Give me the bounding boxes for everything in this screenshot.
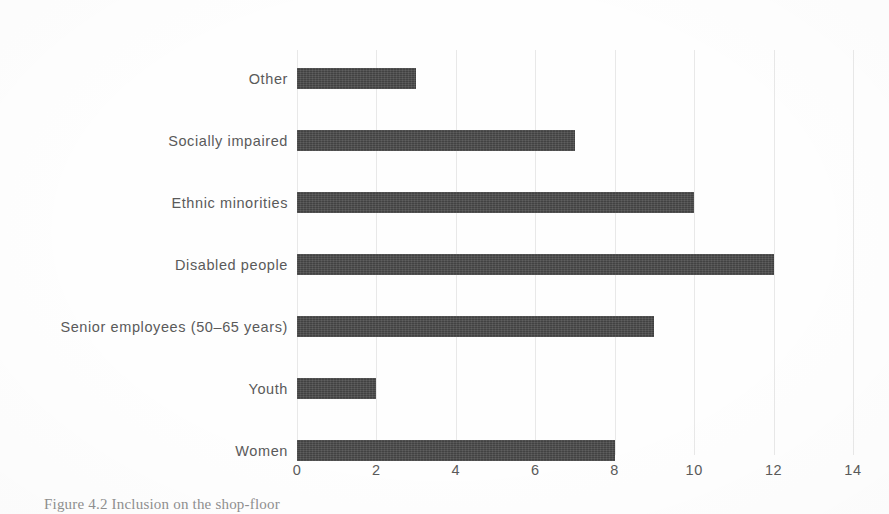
bar-row: Other (297, 68, 853, 89)
bar (297, 192, 694, 213)
x-axis-ticks: 02468101214 (297, 462, 853, 484)
bar-category-label: Socially impaired (168, 133, 288, 149)
x-axis-tick-label: 4 (452, 462, 461, 478)
x-axis-tick-label: 2 (372, 462, 381, 478)
bar (297, 68, 416, 89)
x-axis-tick-label: 8 (610, 462, 619, 478)
x-axis-tick-label: 0 (293, 462, 302, 478)
bar-row: Senior employees (50–65 years) (297, 316, 853, 337)
x-axis-tick-label: 12 (765, 462, 782, 478)
figure-caption: Figure 4.2 Inclusion on the shop-floor (44, 496, 280, 513)
bar-category-label: Disabled people (175, 257, 288, 273)
bar (297, 378, 376, 399)
gridline (853, 50, 854, 455)
bar-category-label: Ethnic minorities (171, 195, 288, 211)
bar (297, 316, 654, 337)
chart-plot-area: WomenYouthSenior employees (50–65 years)… (297, 50, 853, 455)
bar-category-label: Senior employees (50–65 years) (60, 319, 288, 335)
bar (297, 130, 575, 151)
bar-row: Ethnic minorities (297, 192, 853, 213)
bar (297, 254, 774, 275)
bar-category-label: Youth (248, 381, 288, 397)
bar-category-label: Other (249, 71, 288, 87)
bar (297, 440, 615, 461)
bar-row: Socially impaired (297, 130, 853, 151)
figure-container: WomenYouthSenior employees (50–65 years)… (0, 0, 889, 514)
bar-row: Disabled people (297, 254, 853, 275)
bar-row: Youth (297, 378, 853, 399)
x-axis-tick-label: 6 (531, 462, 540, 478)
x-axis-tick-label: 14 (844, 462, 861, 478)
x-axis-tick-label: 10 (685, 462, 702, 478)
bar-row: Women (297, 440, 853, 461)
bar-category-label: Women (235, 443, 288, 459)
